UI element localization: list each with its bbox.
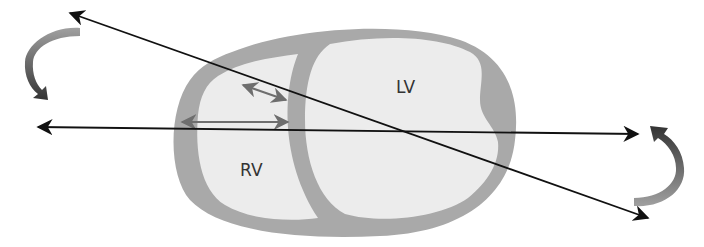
heart-cross-section-diagram: LV RV <box>0 0 704 247</box>
lv-label: LV <box>396 77 416 97</box>
lv-cavity <box>305 38 498 219</box>
rotation-arrow-left-icon <box>25 28 80 100</box>
rv-label: RV <box>240 160 263 180</box>
rotation-arrow-right-icon <box>634 126 684 206</box>
